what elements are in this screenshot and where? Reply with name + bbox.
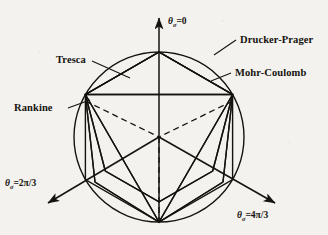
axes-group	[48, 18, 275, 222]
leader-drucker-prager	[214, 40, 236, 55]
axis-label-theta-4pi-3-value: =4π/3	[245, 210, 268, 220]
axis-label-theta-0-value: =0	[176, 16, 186, 26]
chord-left-vertex-to-bottom	[85, 95, 159, 223]
dashed-right-to-center	[159, 101, 233, 137]
label-tresca: Tresca	[56, 54, 87, 65]
leader-lines-group	[68, 40, 236, 108]
label-drucker-prager: Drucker-Prager	[240, 34, 314, 45]
axis-label-theta-0: θσ=0	[168, 16, 187, 28]
chord-right-vertex-to-bottom	[159, 95, 233, 223]
dashed-left-to-center	[85, 101, 159, 137]
axis-label-theta-4pi-3: θσ=4π/3	[237, 210, 268, 222]
axis-label-theta-2pi-3-value: =2π/3	[13, 178, 36, 188]
label-mohr-coulomb: Mohr-Coulomb	[235, 67, 306, 78]
leader-tresca	[92, 61, 130, 78]
axis-label-theta-2pi-3: θσ=2π/3	[5, 178, 36, 190]
chord-top-left	[85, 52, 159, 95]
deviatoric-plane-yield-criteria-figure: Drucker-Prager Mohr-Coulomb Tresca Ranki…	[0, 0, 328, 235]
chord-top-right	[159, 52, 233, 95]
label-rankine: Rankine	[14, 102, 53, 113]
